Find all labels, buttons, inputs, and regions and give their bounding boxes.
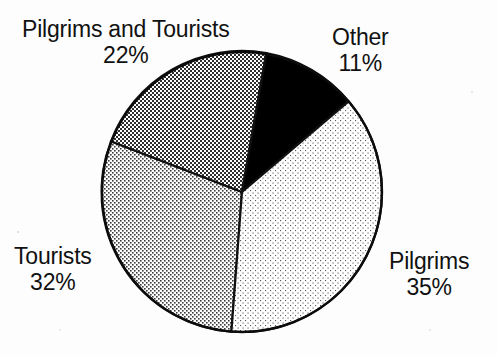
pie-label-other: Other 11% [332, 24, 389, 76]
pie-label-name: Pilgrims [389, 248, 469, 274]
pie-label-pilgrims-and-tourists: Pilgrims and Tourists 22% [22, 16, 230, 68]
pie-chart-figure: Pilgrims and Tourists 22% Other 11% Tour… [0, 0, 497, 355]
pie-label-tourists: Tourists 32% [14, 243, 92, 295]
pie-label-name: Tourists [14, 243, 92, 269]
pie-label-value: 32% [14, 269, 92, 295]
pie-label-name: Pilgrims and Tourists [22, 16, 230, 42]
pie-label-value: 11% [332, 50, 389, 76]
pie-label-name: Other [332, 24, 389, 50]
pie-label-pilgrims: Pilgrims 35% [389, 248, 469, 300]
pie-label-value: 22% [22, 42, 230, 68]
pie-label-value: 35% [389, 274, 469, 300]
